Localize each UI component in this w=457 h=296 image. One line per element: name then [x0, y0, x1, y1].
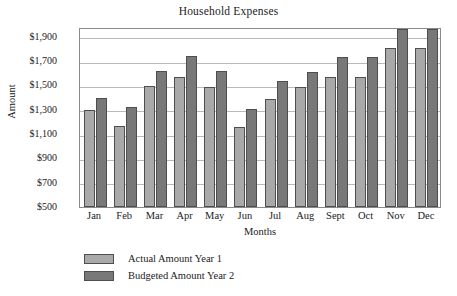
- bar: [385, 48, 396, 207]
- x-tick-label: Dec: [411, 210, 441, 221]
- legend-label: Actual Amount Year 1: [128, 253, 222, 264]
- x-tick-label: Oct: [351, 210, 381, 221]
- legend-swatch: [84, 254, 114, 264]
- bar-group: [355, 29, 378, 207]
- bar: [367, 57, 378, 207]
- x-tick-label: Sept: [320, 210, 350, 221]
- bar-group: [234, 29, 257, 207]
- bar-group: [415, 29, 438, 207]
- bar: [295, 87, 306, 207]
- y-tick-label: $900: [37, 152, 57, 163]
- legend-item: Budgeted Amount Year 2: [84, 267, 234, 284]
- bar: [186, 56, 197, 207]
- legend-swatch: [84, 271, 114, 281]
- y-axis-tick-labels: $500$700$900$1,100$1,300$1,500$1,700$1,9…: [0, 0, 79, 296]
- x-tick-label: Mar: [139, 210, 169, 221]
- bar-group: [265, 29, 288, 207]
- x-axis-title: Months: [79, 226, 441, 237]
- bar: [397, 29, 408, 207]
- y-tick-label: $500: [37, 201, 57, 212]
- plot-area: [79, 28, 441, 208]
- bar-group: [114, 29, 137, 207]
- bar: [355, 77, 366, 207]
- x-tick-label: Aug: [290, 210, 320, 221]
- bar: [114, 126, 125, 207]
- x-tick-label: Jun: [230, 210, 260, 221]
- x-tick-label: Nov: [381, 210, 411, 221]
- x-tick-label: Jan: [79, 210, 109, 221]
- bar: [277, 81, 288, 207]
- y-tick-label: $1,500: [30, 79, 58, 90]
- bar: [174, 77, 185, 207]
- bar-group: [204, 29, 227, 207]
- bar: [126, 107, 137, 207]
- chart-legend: Actual Amount Year 1Budgeted Amount Year…: [84, 250, 234, 284]
- legend-item: Actual Amount Year 1: [84, 250, 234, 267]
- y-tick-label: $700: [37, 177, 57, 188]
- y-tick-label: $1,700: [30, 55, 58, 66]
- bar-group: [295, 29, 318, 207]
- bar-group: [385, 29, 408, 207]
- bar-group: [144, 29, 167, 207]
- bar-series-layer: [80, 29, 440, 207]
- bar-group: [84, 29, 107, 207]
- bar: [234, 127, 245, 207]
- x-tick-label: Apr: [170, 210, 200, 221]
- x-tick-label: Jul: [260, 210, 290, 221]
- x-tick-label: Feb: [109, 210, 139, 221]
- bar: [325, 77, 336, 207]
- bar-group: [174, 29, 197, 207]
- x-axis-tick-labels: JanFebMarAprMayJunJulAugSeptOctNovDec: [79, 210, 441, 226]
- bar: [204, 87, 215, 207]
- x-tick-label: May: [200, 210, 230, 221]
- bar: [427, 29, 438, 207]
- bar: [337, 57, 348, 207]
- bar-group: [325, 29, 348, 207]
- bar: [307, 72, 318, 207]
- bar: [84, 110, 95, 207]
- bar: [156, 71, 167, 207]
- bar: [415, 48, 426, 207]
- bar: [144, 86, 155, 207]
- y-tick-label: $1,100: [30, 128, 58, 139]
- bar: [265, 99, 276, 207]
- bar: [96, 98, 107, 207]
- bar: [246, 109, 257, 208]
- legend-label: Budgeted Amount Year 2: [128, 270, 234, 281]
- y-tick-label: $1,300: [30, 104, 58, 115]
- bar: [216, 71, 227, 207]
- chart-page: Household Expenses Amount $500$700$900$1…: [0, 0, 457, 296]
- y-tick-label: $1,900: [30, 31, 58, 42]
